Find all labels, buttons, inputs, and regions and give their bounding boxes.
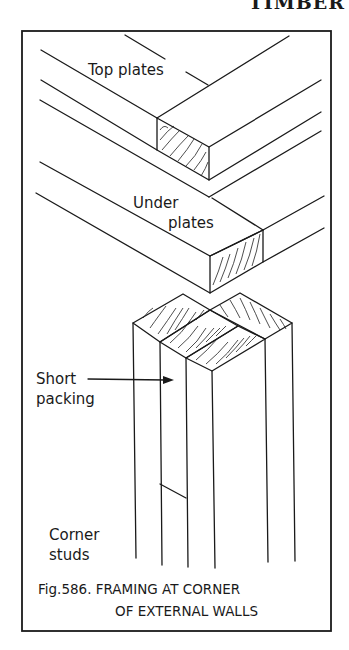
short-packing-end xyxy=(160,484,186,498)
short-packing-arrow xyxy=(88,376,174,384)
label-short-packing-line1: Short xyxy=(36,370,76,388)
label-top-plates: Top plates xyxy=(87,61,164,79)
framing-corner-diagram: Top plates Under plates Short packing Co… xyxy=(0,0,349,650)
corner-studs xyxy=(133,293,295,568)
label-corner-studs-line2: studs xyxy=(49,546,90,564)
label-under-plates-line2: plates xyxy=(168,214,214,232)
label-corner-studs-line1: Corner xyxy=(49,526,100,544)
label-under-plates-line1: Under xyxy=(133,194,179,212)
figure-caption-line2: OF EXTERNAL WALLS xyxy=(115,603,258,619)
label-short-packing-line2: packing xyxy=(36,390,95,408)
top-plates xyxy=(40,35,321,197)
figure-caption-line1: Fig.586. FRAMING AT CORNER xyxy=(38,581,240,597)
